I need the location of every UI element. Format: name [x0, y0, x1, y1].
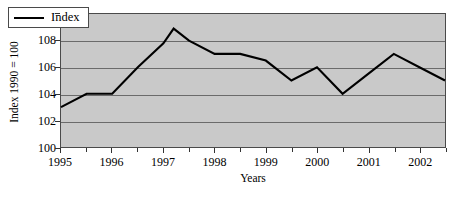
y-tick-label-102: 102 [22, 115, 56, 127]
x-tick-label-2002: 2002 [390, 155, 450, 169]
plot-inner [61, 14, 445, 147]
x-tick-mark-minor [86, 148, 87, 152]
x-tick-mark-minor [189, 148, 190, 152]
legend-line-swatch-index [14, 17, 44, 19]
y-tick-label-106: 106 [22, 61, 56, 73]
y-tick-mark-106 [55, 67, 60, 68]
x-tick-mark-minor [137, 148, 138, 152]
x-tick-mark-1999 [266, 148, 267, 153]
x-tick-mark-1996 [111, 148, 112, 153]
series-line-index [61, 29, 445, 107]
x-tick-mark-2001 [369, 148, 370, 153]
y-tick-mark-104 [55, 94, 60, 95]
y-tick-mark-108 [55, 40, 60, 41]
x-tick-mark-minor [395, 148, 396, 152]
y-tick-label-108: 108 [22, 34, 56, 46]
series-index-line [61, 14, 445, 147]
x-tick-mark-1995 [60, 148, 61, 153]
chart-legend: Index [8, 7, 89, 28]
chart-figure: Index 1990 = 100 110108106104102100 1995… [0, 0, 464, 208]
x-tick-mark-2000 [317, 148, 318, 153]
x-tick-mark-minor [343, 148, 344, 152]
x-tick-mark-minor [446, 148, 447, 152]
y-tick-mark-100 [55, 148, 60, 149]
x-tick-mark-minor [292, 148, 293, 152]
x-tick-mark-2002 [420, 148, 421, 153]
x-tick-mark-1997 [163, 148, 164, 153]
y-tick-label-100: 100 [22, 142, 56, 154]
x-tick-mark-minor [240, 148, 241, 152]
x-axis-title: Years [60, 172, 446, 184]
x-tick-mark-1998 [214, 148, 215, 153]
y-axis-tick-labels: 110108106104102100 [22, 0, 56, 208]
y-tick-mark-110 [55, 13, 60, 14]
y-tick-label-104: 104 [22, 88, 56, 100]
plot-area [60, 13, 446, 148]
y-tick-mark-102 [55, 121, 60, 122]
